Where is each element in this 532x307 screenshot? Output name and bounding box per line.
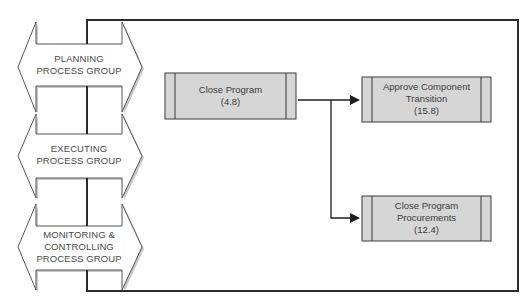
label-line: (4.8) [175,96,286,108]
label-line: (12.4) [372,224,481,236]
label-line: Procurements [372,212,481,224]
label-line: PROCESS GROUP [36,155,122,167]
label-line: PROCESS GROUP [36,253,122,265]
program-closing-diagram: PLANNING PROCESS GROUP EXECUTING PROCESS… [0,0,532,307]
process-group-label-monitoring: MONITORING & CONTROLLING PROCESS GROUP [36,229,122,265]
label-line: Close Program [175,84,286,96]
connector-to-close-program-procurements [331,100,358,218]
process-label-close-program-procurements: Close Program Procurements (12.4) [372,200,481,236]
process-group-label-executing: EXECUTING PROCESS GROUP [36,143,122,167]
label-line: MONITORING & [36,229,122,241]
label-line: Close Program [372,200,481,212]
lifecycle-frame [87,20,518,291]
connectors [298,100,358,218]
process-group-label-planning: PLANNING PROCESS GROUP [36,53,122,77]
process-label-close-program: Close Program (4.8) [175,84,286,108]
label-line: CONTROLLING [36,241,122,253]
label-line: Transition [372,93,481,105]
label-line: Approve Component [372,81,481,93]
label-line: PLANNING [36,53,122,65]
label-line: EXECUTING [36,143,122,155]
label-line: PROCESS GROUP [36,65,122,77]
process-label-approve-component-transition: Approve Component Transition (15.8) [372,81,481,117]
label-line: (15.8) [372,105,481,117]
